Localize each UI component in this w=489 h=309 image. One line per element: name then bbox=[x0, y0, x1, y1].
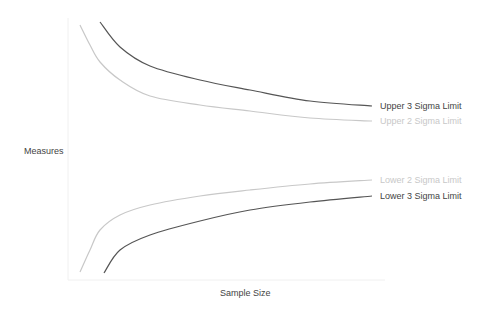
control-limits-chart bbox=[0, 0, 489, 309]
y-axis-title: Measures bbox=[24, 146, 64, 156]
series-line-upper-2-sigma-limit bbox=[80, 25, 372, 121]
x-axis-title: Sample Size bbox=[220, 288, 271, 298]
label-lower-2-sigma: Lower 2 Sigma Limit bbox=[380, 175, 462, 185]
series-lines bbox=[80, 22, 372, 273]
series-line-lower-2-sigma-limit bbox=[80, 180, 372, 272]
label-lower-3-sigma: Lower 3 Sigma Limit bbox=[380, 191, 462, 201]
series-line-lower-3-sigma-limit bbox=[104, 196, 372, 273]
series-line-upper-3-sigma-limit bbox=[100, 22, 372, 106]
label-upper-2-sigma: Upper 2 Sigma Limit bbox=[380, 116, 462, 126]
label-upper-3-sigma: Upper 3 Sigma Limit bbox=[380, 101, 462, 111]
